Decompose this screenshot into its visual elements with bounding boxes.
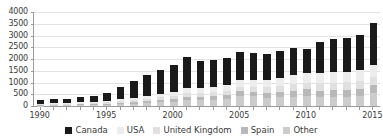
bar-column[interactable] — [370, 23, 378, 106]
y-tick-mark — [31, 71, 34, 72]
bar-column[interactable] — [197, 61, 205, 106]
x-tick-mark — [159, 107, 160, 110]
bar-segment — [250, 53, 258, 79]
x-tick-mark — [93, 107, 94, 110]
y-tick-label: 2000 — [8, 55, 28, 63]
bar-column[interactable] — [276, 51, 284, 106]
x-tick-mark — [199, 107, 200, 110]
bar-segment — [183, 57, 191, 88]
bar-segment — [303, 73, 311, 83]
bar-segment — [276, 78, 284, 86]
bar-segment — [103, 93, 111, 101]
x-tick-mark — [226, 107, 227, 110]
y-tick-mark — [31, 47, 34, 48]
bar-column[interactable] — [157, 70, 165, 106]
legend-swatch-icon — [153, 127, 160, 134]
x-tick-mark — [53, 107, 54, 110]
bar-segment — [210, 100, 218, 106]
bar-segment — [236, 96, 244, 106]
bar-segment — [90, 105, 98, 106]
x-tick-mark — [40, 107, 41, 110]
bar-segment — [370, 23, 378, 65]
y-tick-mark — [31, 12, 34, 13]
bar-column[interactable] — [50, 99, 58, 106]
legend-swatch-icon — [241, 127, 248, 134]
bar-segment — [210, 60, 218, 87]
bar-segment — [370, 77, 378, 85]
y-tick-mark — [31, 94, 34, 95]
bar-column[interactable] — [170, 65, 178, 106]
legend-swatch-icon — [65, 127, 72, 134]
bar-segment — [143, 75, 151, 95]
bar-column[interactable] — [183, 57, 191, 106]
bar-segment — [356, 35, 364, 70]
bar-segment — [290, 84, 298, 91]
bar-segment — [157, 70, 165, 94]
bar-segment — [290, 75, 298, 84]
legend-swatch-icon — [117, 127, 124, 134]
bar-column[interactable] — [63, 98, 71, 106]
y-tick-label: 500 — [13, 90, 28, 98]
bar-column[interactable] — [236, 51, 244, 106]
legend-item[interactable]: Canada — [65, 126, 107, 135]
bar-segment — [183, 100, 191, 106]
x-tick-mark — [239, 107, 240, 110]
bar-column[interactable] — [263, 54, 271, 106]
bar-segment — [263, 98, 271, 106]
bar-column[interactable] — [210, 60, 218, 106]
bar-column[interactable] — [143, 75, 151, 106]
bar-segment — [63, 105, 71, 106]
bar-column[interactable] — [90, 96, 98, 106]
bar-segment — [330, 90, 338, 97]
bar-column[interactable] — [343, 38, 351, 106]
bar-column[interactable] — [290, 48, 298, 106]
bar-segment — [303, 96, 311, 106]
chart-legend: CanadaUSAUnited KingdomSpainOther — [0, 123, 383, 137]
legend-item[interactable]: Spain — [241, 126, 275, 135]
x-tick-mark — [146, 107, 147, 110]
bar-segment — [316, 42, 324, 73]
bar-column[interactable] — [356, 35, 364, 106]
bar-column[interactable] — [223, 58, 231, 106]
y-tick-label: 1500 — [8, 67, 28, 75]
bar-column[interactable] — [117, 87, 125, 107]
x-tick-mark — [186, 107, 187, 110]
bar-segment — [103, 105, 111, 106]
bar-column[interactable] — [316, 42, 324, 106]
legend-item[interactable]: Other — [283, 126, 317, 135]
bar-segment — [77, 105, 85, 106]
bar-column[interactable] — [303, 49, 311, 106]
y-axis: 05001000150020002500300035004000 — [0, 8, 30, 106]
bar-segment — [356, 81, 364, 89]
bar-column[interactable] — [130, 81, 138, 106]
bar-segment — [370, 93, 378, 106]
y-tick-mark — [31, 83, 34, 84]
legend-item[interactable]: USA — [117, 126, 145, 135]
bar-segment — [50, 105, 58, 106]
bar-column[interactable] — [103, 93, 111, 106]
bar-segment — [157, 102, 165, 106]
bar-column[interactable] — [330, 39, 338, 106]
legend-item[interactable]: United Kingdom — [153, 126, 231, 135]
bar-segment — [356, 70, 364, 81]
bar-segment — [290, 48, 298, 75]
bar-column[interactable] — [37, 100, 45, 106]
x-tick-mark — [253, 107, 254, 110]
bar-segment — [263, 80, 271, 88]
bar-segment — [343, 72, 351, 83]
y-tick-label: 1000 — [8, 79, 28, 87]
x-tick-mark — [80, 107, 81, 110]
legend-label: Spain — [251, 126, 275, 135]
bar-column[interactable] — [77, 97, 85, 106]
x-tick-mark — [346, 107, 347, 110]
bar-segment — [250, 80, 258, 87]
x-tick-mark — [266, 107, 267, 110]
x-tick-mark — [293, 107, 294, 110]
y-tick-label: 2500 — [8, 43, 28, 51]
bar-column[interactable] — [250, 53, 258, 106]
bar-segment — [130, 104, 138, 106]
bar-segment — [223, 58, 231, 85]
x-tick-label: 1995 — [96, 111, 116, 120]
bar-segment — [250, 96, 258, 106]
x-tick-mark — [372, 107, 373, 110]
